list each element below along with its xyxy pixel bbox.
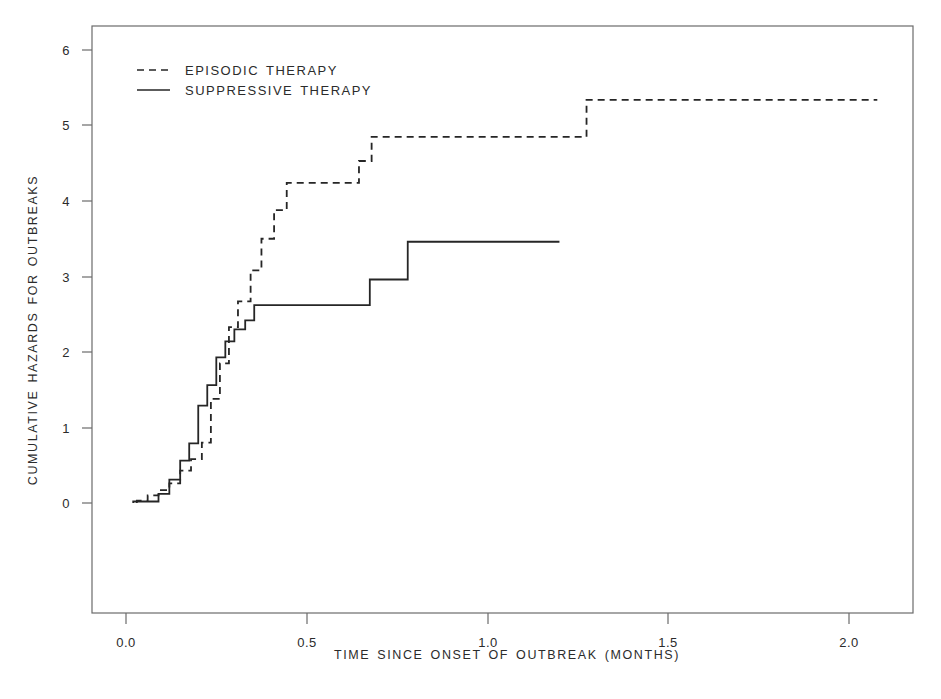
series-line-suppressive-therapy (133, 242, 559, 503)
x-tick-label-1: 0.5 (297, 635, 316, 650)
legend-item-suppressive: SUPPRESSIVE THERAPY (137, 80, 467, 100)
solid-line-icon (137, 84, 170, 96)
y-tick-label-1: 1 (48, 421, 70, 436)
x-axis-title: TIME SINCE ONSET OF OUTBREAK (MONTHS) (334, 648, 680, 662)
y-tick-label-3: 3 (48, 270, 70, 285)
x-axis-ticks (126, 613, 849, 624)
y-tick-label-6: 6 (48, 43, 70, 58)
chart-legend: EPISODIC THERAPY SUPPRESSIVE THERAPY (137, 60, 467, 100)
data-series-layer (133, 100, 877, 503)
legend-label-episodic: EPISODIC THERAPY (185, 63, 338, 78)
figure-container: 6 5 4 3 2 1 0 0.0 0.5 1.0 1.5 2.0 TIME S… (0, 0, 941, 699)
chart-plot-area (0, 0, 941, 699)
legend-item-episodic: EPISODIC THERAPY (137, 60, 467, 80)
y-tick-label-4: 4 (48, 194, 70, 209)
x-tick-label-4: 2.0 (839, 635, 858, 650)
x-tick-label-0: 0.0 (116, 635, 135, 650)
y-axis-title: CUMULATIVE HAZARDS FOR OUTBREAKS (26, 175, 40, 485)
plot-frame (92, 26, 913, 613)
y-tick-label-5: 5 (48, 118, 70, 133)
series-line-episodic-therapy (137, 100, 877, 503)
dashed-line-icon (137, 64, 170, 76)
legend-label-suppressive: SUPPRESSIVE THERAPY (185, 83, 372, 98)
y-axis-ticks (82, 50, 92, 503)
y-tick-label-2: 2 (48, 345, 70, 360)
y-tick-label-0: 0 (48, 496, 70, 511)
